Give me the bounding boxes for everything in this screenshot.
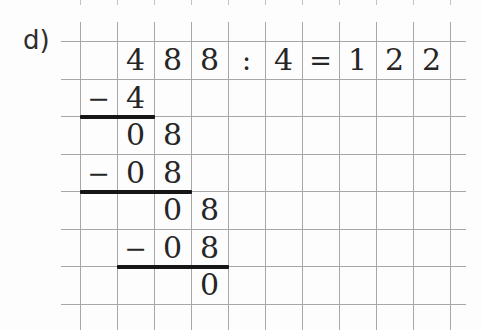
grid-tick <box>339 0 340 5</box>
exercise-label: d) <box>23 27 50 53</box>
remainder-step-2-digit-1: 0 <box>154 191 191 229</box>
subtrahend-step-1: 4 <box>117 79 154 117</box>
grid-tick <box>117 0 118 5</box>
dividend-digit-2: 8 <box>154 41 191 79</box>
grid-tick <box>191 0 192 5</box>
division-sign: : <box>228 41 265 79</box>
remainder-step-1-digit-2: 8 <box>154 116 191 154</box>
quotient-digit-3: 2 <box>413 41 450 79</box>
grid-tick <box>80 0 81 5</box>
grid-tick <box>228 0 229 5</box>
remainder-step-2-digit-2: 8 <box>191 191 228 229</box>
grid-tick <box>376 0 377 5</box>
minus-sign-step-3: − <box>117 229 154 267</box>
divisor: 4 <box>265 41 302 79</box>
grid-tick <box>450 0 451 5</box>
grid-line-horizontal <box>61 304 466 305</box>
minus-sign-step-1: − <box>80 79 117 117</box>
grid-tick <box>302 0 303 5</box>
subtrahend-step-3-digit-1: 0 <box>154 229 191 267</box>
quotient-digit-1: 1 <box>339 41 376 79</box>
division-worksheet: d) 4 8 8 : 4 = 1 2 2 − 4 0 8 − 0 8 0 8 −… <box>0 0 482 330</box>
subtrahend-step-2-digit-1: 0 <box>117 154 154 192</box>
subtrahend-step-3-digit-2: 8 <box>191 229 228 267</box>
grid-tick <box>413 0 414 5</box>
grid-line-vertical <box>450 22 451 330</box>
grid-tick <box>265 0 266 5</box>
dividend-digit-1: 4 <box>117 41 154 79</box>
equals-sign: = <box>302 41 339 79</box>
remainder-step-1-digit-1: 0 <box>117 116 154 154</box>
final-remainder: 0 <box>191 266 228 304</box>
subtrahend-step-2-digit-2: 8 <box>154 154 191 192</box>
quotient-digit-2: 2 <box>376 41 413 79</box>
grid-tick <box>154 0 155 5</box>
dividend-digit-3: 8 <box>191 41 228 79</box>
minus-sign-step-2: − <box>80 154 117 192</box>
